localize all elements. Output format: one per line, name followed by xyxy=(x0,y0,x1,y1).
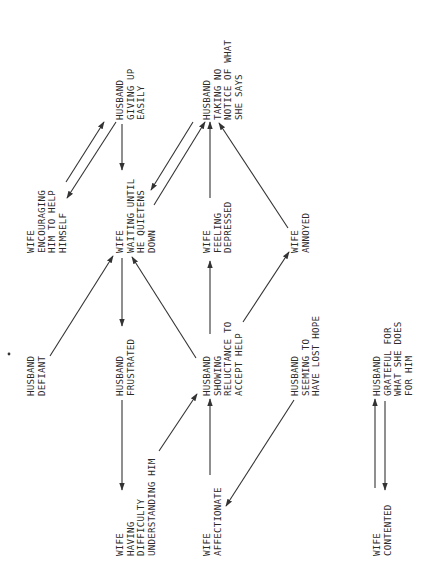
node-line: FRUSTRATED xyxy=(126,339,137,396)
node-w-annoyed: WIFEANNOYED xyxy=(290,213,311,253)
node-line: FOR HIM xyxy=(404,321,415,396)
arrow-h-defiant-to-w-waiting xyxy=(50,256,113,356)
node-line: HUSBAND xyxy=(202,321,213,396)
arrow-w-difficulty-to-h-reluctance xyxy=(159,394,197,451)
node-line: RELUCTANCE TO xyxy=(223,321,234,396)
node-line: NOTICE OF WHAT xyxy=(223,40,234,120)
arrow-h-taking-no-notice-to-w-waiting xyxy=(151,122,193,190)
arrow-w-waiting-to-h-taking-no-notice xyxy=(154,122,205,205)
node-line: HE QUIETENS xyxy=(136,178,147,253)
node-line: WIFE xyxy=(202,487,213,556)
stray-dot xyxy=(8,353,11,356)
node-w-affectionate: WIFEAFFECTIONATE xyxy=(202,487,223,556)
node-line: HIM TO HELP xyxy=(47,190,58,253)
node-line: DIFFICULTY xyxy=(136,459,147,556)
node-line: CONTENTED xyxy=(383,504,394,556)
node-line: DEPRESSED xyxy=(223,201,234,253)
node-h-reluctance: HUSBANDSHOWINGRELUCTANCE TOACCEPT HELP xyxy=(202,321,244,396)
interaction-diagram: HUSBANDGIVING UPEASILYHUSBANDTAKING NONO… xyxy=(0,0,432,585)
node-line: EASILY xyxy=(136,68,147,120)
node-w-contented: WIFECONTENTED xyxy=(372,504,393,556)
node-line: ACCEPT HELP xyxy=(234,321,245,396)
node-line: WHAT SHE DOES xyxy=(393,321,404,396)
node-line: WIFE xyxy=(290,213,301,253)
node-line: HUSBAND xyxy=(372,321,383,396)
node-line: WIFE xyxy=(115,459,126,556)
arrow-h-reluctance-to-w-waiting xyxy=(132,257,196,358)
node-line: SHE SAYS xyxy=(234,40,245,120)
node-h-taking-no-notice: HUSBANDTAKING NONOTICE OF WHATSHE SAYS xyxy=(202,40,244,120)
node-line: DEFIANT xyxy=(37,356,48,396)
node-h-giving-up: HUSBANDGIVING UPEASILY xyxy=(115,68,147,120)
node-line: UNDERSTANDING HIM xyxy=(147,459,158,556)
node-line: AFFECTIONATE xyxy=(213,487,224,556)
node-w-difficulty: WIFEHAVINGDIFFICULTYUNDERSTANDING HIM xyxy=(115,459,157,556)
arrow-h-giving-up-to-w-encouraging xyxy=(67,122,116,198)
arrow-h-reluctance-to-w-annoyed xyxy=(243,252,289,322)
node-h-defiant: HUSBANDDEFIANT xyxy=(26,356,47,396)
node-line: HIMSELF xyxy=(58,190,69,253)
node-h-grateful: HUSBANDGRATEFUL FORWHAT SHE DOESFOR HIM xyxy=(372,321,414,396)
node-line: HUSBAND xyxy=(115,68,126,120)
node-line: HUSBAND xyxy=(290,316,301,396)
node-line: WIFE xyxy=(202,201,213,253)
node-w-depressed: WIFEFEELINGDEPRESSED xyxy=(202,201,234,253)
node-line: HUSBAND xyxy=(115,339,126,396)
node-line: HAVE LOST HOPE xyxy=(311,316,322,396)
node-w-waiting: WIFEWAITING UNTILHE QUIETENSDOWN xyxy=(115,178,157,253)
node-line: HUSBAND xyxy=(202,40,213,120)
node-w-encouraging: WIFEENCOURAGINGHIM TO HELPHIMSELF xyxy=(26,190,68,253)
node-h-lost-hope: HUSBANDSEEMING TOHAVE LOST HOPE xyxy=(290,316,322,396)
arrow-h-lost-hope-to-w-affectionate xyxy=(226,400,294,506)
node-line: WIFE xyxy=(115,178,126,253)
node-line: ANNOYED xyxy=(301,213,312,253)
node-line: HUSBAND xyxy=(26,356,37,396)
node-line: DOWN xyxy=(147,178,158,253)
node-line: WIFE xyxy=(26,190,37,253)
arrow-w-encouraging-to-h-giving-up xyxy=(66,122,104,182)
node-h-frustrated: HUSBANDFRUSTRATED xyxy=(115,339,136,396)
node-line: WIFE xyxy=(372,504,383,556)
